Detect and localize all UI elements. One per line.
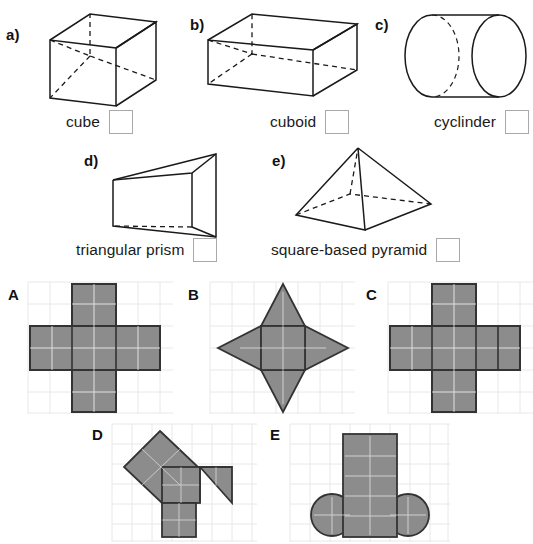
net-letter-b: B [188, 286, 199, 303]
net-letter-a: A [8, 286, 19, 303]
cuboid-answer-box[interactable] [325, 110, 349, 134]
cuboid-drawing [200, 6, 365, 106]
cube-name: cube [66, 113, 100, 131]
net-letter-c: C [366, 286, 377, 303]
triangular-prism-name: triangular prism [76, 241, 184, 259]
solid-label-c: c) [375, 16, 389, 33]
square-based-pyramid-name: square-based pyramid [271, 241, 427, 259]
square-based-pyramid-answer-box[interactable] [436, 238, 460, 262]
net-d-diagram [112, 424, 257, 542]
cylinder-answer-box[interactable] [505, 110, 529, 134]
cuboid-answer-row: cuboid [270, 110, 349, 134]
net-e-diagram [290, 424, 450, 542]
cylinder-name: cyclinder [434, 113, 496, 131]
net-b-diagram [210, 282, 355, 414]
cube-drawing [28, 8, 158, 108]
triangular-prism-answer-row: triangular prism [76, 238, 217, 262]
solid-label-d: d) [84, 152, 99, 169]
triangular-prism-drawing [108, 144, 243, 239]
cylinder-drawing [396, 6, 528, 106]
solid-label-e: e) [272, 152, 286, 169]
cylinder-answer-row: cyclinder [434, 110, 529, 134]
cube-answer-box[interactable] [109, 110, 133, 134]
cuboid-name: cuboid [270, 113, 316, 131]
net-c-diagram [388, 282, 533, 414]
triangular-prism-answer-box[interactable] [193, 238, 217, 262]
cube-answer-row: cube [66, 110, 133, 134]
net-b-inner-grid [240, 292, 326, 404]
net-a-diagram [28, 282, 173, 414]
square-based-pyramid-answer-row: square-based pyramid [271, 238, 460, 262]
square-based-pyramid-drawing [288, 142, 443, 237]
net-letter-d: D [92, 426, 103, 443]
net-letter-e: E [270, 426, 280, 443]
solid-label-a: a) [6, 26, 20, 43]
